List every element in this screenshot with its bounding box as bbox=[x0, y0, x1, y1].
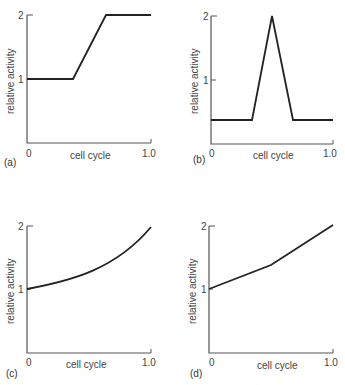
xtick-label-1: 1.0 bbox=[324, 357, 338, 368]
ytick-label-1: 1 bbox=[18, 284, 24, 295]
xtick-label-0: 0 bbox=[26, 148, 32, 159]
xtick-label-0: 0 bbox=[209, 357, 215, 368]
chart-b: 2 1 0 1.0 cell cycle relative activity (… bbox=[189, 11, 337, 165]
ytick-label-1: 1 bbox=[203, 75, 209, 86]
x-axis-label: cell cycle bbox=[70, 150, 111, 161]
chart-d: 2 1 0 1.0 cell cycle relative activity (… bbox=[187, 221, 338, 379]
y-axis-label: relative activity bbox=[187, 258, 198, 324]
x-axis-label: cell cycle bbox=[257, 360, 298, 371]
axes-b bbox=[211, 16, 333, 144]
curve-b bbox=[211, 16, 333, 120]
xtick-label-1: 1.0 bbox=[142, 357, 156, 368]
y-axis-label: relative activity bbox=[189, 48, 200, 114]
y-axis-label: relative activity bbox=[5, 258, 16, 324]
xtick-label-0: 0 bbox=[209, 148, 215, 159]
y-axis-label: relative activity bbox=[5, 48, 16, 114]
ytick-label-2: 2 bbox=[18, 221, 24, 232]
panel-label-d: (d) bbox=[190, 368, 202, 379]
ytick-label-2: 2 bbox=[203, 11, 209, 22]
ytick-label-1: 1 bbox=[18, 74, 24, 85]
curve-d bbox=[209, 225, 333, 289]
figure: 2 1 0 1.0 cell cycle relative activity (… bbox=[0, 0, 345, 385]
panel-label-c: (c) bbox=[6, 368, 18, 379]
axes-d bbox=[209, 226, 333, 353]
ytick-label-2: 2 bbox=[201, 221, 207, 232]
chart-a: 2 1 0 1.0 cell cycle relative activity (… bbox=[4, 10, 156, 168]
curve-a bbox=[27, 15, 151, 79]
x-axis-label: cell cycle bbox=[66, 359, 107, 370]
curve-c bbox=[27, 227, 151, 289]
xtick-label-0: 0 bbox=[26, 357, 32, 368]
panel-label-a: (a) bbox=[4, 157, 16, 168]
xtick-label-1: 1.0 bbox=[142, 148, 156, 159]
ytick-label-2: 2 bbox=[18, 10, 24, 21]
chart-c: 2 1 0 1.0 cell cycle relative activity (… bbox=[5, 221, 156, 379]
x-axis-label: cell cycle bbox=[253, 150, 294, 161]
ytick-label-1: 1 bbox=[201, 284, 207, 295]
xtick-label-1: 1.0 bbox=[323, 148, 337, 159]
panel-label-b: (b) bbox=[193, 154, 205, 165]
